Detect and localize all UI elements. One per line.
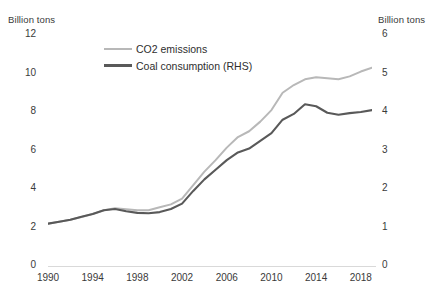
series-line-co2-emissions [48, 68, 372, 224]
x-axis-line [48, 266, 376, 267]
series-line-coal-consumption-rhs [48, 104, 372, 223]
legend-swatch-coal-icon [104, 64, 132, 67]
legend-swatch-co2-icon [104, 48, 132, 50]
x-tick-2014: 2014 [296, 272, 336, 283]
x-tick-2018: 2018 [341, 272, 381, 283]
legend-label-coal-consumption: Coal consumption (RHS) [136, 60, 252, 72]
legend-item-coal-consumption: Coal consumption (RHS) [104, 57, 252, 74]
x-tick-2010: 2010 [251, 272, 291, 283]
x-tick-1994: 1994 [73, 272, 113, 283]
chart-legend: CO2 emissions Coal consumption (RHS) [104, 40, 252, 74]
legend-label-co2-emissions: CO2 emissions [136, 43, 207, 55]
legend-item-co2-emissions: CO2 emissions [104, 40, 252, 57]
x-tick-1990: 1990 [28, 272, 68, 283]
chart-container: Billion tons Billion tons 121086420 6543… [0, 0, 429, 301]
x-tick-2002: 2002 [162, 272, 202, 283]
x-tick-2006: 2006 [207, 272, 247, 283]
x-tick-1998: 1998 [117, 272, 157, 283]
